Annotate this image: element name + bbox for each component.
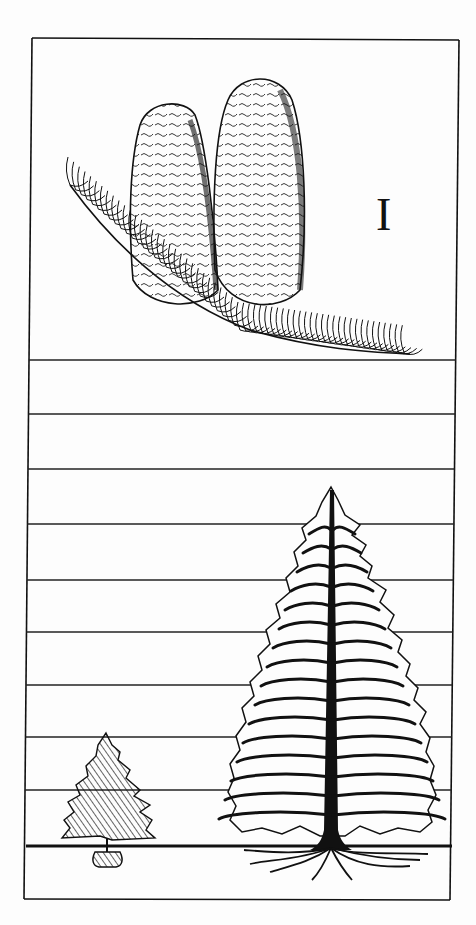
- roots: [244, 848, 428, 880]
- botanical-plate: [0, 0, 476, 925]
- mature-tree-illustration: [219, 487, 445, 880]
- cone-left: [130, 104, 218, 304]
- cone-branch-illustration: [66, 79, 422, 355]
- young-tree-crown: [62, 733, 155, 840]
- plate-numeral: I: [376, 192, 391, 238]
- root-ball: [93, 852, 122, 867]
